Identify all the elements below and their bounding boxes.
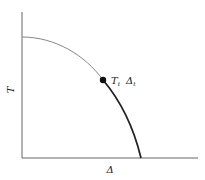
curve-thick [103,80,141,158]
y-axis-label: T [5,85,16,93]
point-label-delta: Δt [125,75,136,87]
transition-point [100,77,106,83]
phase-diagram: Tt Δt T Δ [0,0,205,180]
x-axis-label: Δ [105,164,113,175]
curve-thin [22,37,103,80]
point-label-T: Tt [111,75,121,87]
